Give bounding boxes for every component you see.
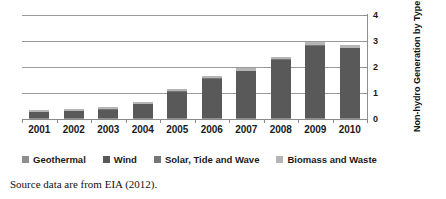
- y-tick-3: [363, 41, 368, 42]
- y-axis-tick-label: 0: [373, 115, 378, 124]
- y-axis-tick-label: 1: [373, 89, 378, 98]
- source-caption: Source data are from EIA (2012).: [10, 178, 157, 190]
- bar-2008[interactable]: [271, 57, 291, 119]
- bar-segment-wind: [202, 79, 222, 118]
- legend-item-wind[interactable]: Wind: [103, 154, 137, 165]
- y-tick-1: [363, 93, 368, 94]
- legend-item-biomass-and-waste[interactable]: Biomass and Waste: [276, 154, 376, 165]
- legend-swatch-icon: [22, 156, 29, 163]
- legend-swatch-icon: [103, 156, 110, 163]
- legend-item-solar-tide-and-wave[interactable]: Solar, Tide and Wave: [154, 154, 260, 165]
- bar-2005[interactable]: [167, 89, 187, 119]
- bar-segment-wind: [98, 110, 118, 118]
- bar-segment-wind: [64, 111, 84, 118]
- bar-segment-wind: [340, 48, 360, 118]
- bar-segment-wind: [271, 60, 291, 118]
- legend-label: Biomass and Waste: [287, 154, 376, 165]
- chart-legend: GeothermalWindSolar, Tide and WaveBiomas…: [22, 152, 422, 166]
- bar-segment-wind: [305, 46, 325, 118]
- legend-swatch-icon: [276, 156, 283, 163]
- plot-area: [22, 15, 367, 119]
- legend-label: Geothermal: [33, 154, 86, 165]
- x-tick: [91, 119, 92, 123]
- y-axis-title-text: Non-hydro Generation by Type (Billion kW…: [412, 8, 423, 132]
- legend-label: Wind: [114, 154, 137, 165]
- x-tick: [195, 119, 196, 123]
- x-tick: [264, 119, 265, 123]
- figure-container: Non-hydro Generation by Type (Billion kW…: [0, 0, 446, 199]
- y-tick-4: [363, 15, 368, 16]
- legend-item-geothermal[interactable]: Geothermal: [22, 154, 86, 165]
- y-axis-tick-label: 2: [373, 63, 378, 72]
- x-tick: [22, 119, 23, 123]
- bar-2009[interactable]: [305, 42, 325, 119]
- bar-segment-wind: [167, 92, 187, 118]
- x-tick: [160, 119, 161, 123]
- x-tick: [298, 119, 299, 123]
- bar-2007[interactable]: [236, 68, 256, 119]
- gridline-4: [22, 15, 367, 16]
- y-axis-tick-label: 3: [373, 37, 378, 46]
- bar-2002[interactable]: [64, 109, 84, 119]
- bar-2001[interactable]: [29, 110, 49, 119]
- bar-2010[interactable]: [340, 45, 360, 119]
- legend-label: Solar, Tide and Wave: [165, 154, 260, 165]
- bar-2003[interactable]: [98, 107, 118, 119]
- bar-2004[interactable]: [133, 102, 153, 119]
- x-tick: [126, 119, 127, 123]
- y-axis-title: Non-hydro Generation by Type (Billion kW…: [392, 8, 442, 132]
- x-tick: [57, 119, 58, 123]
- bar-2006[interactable]: [202, 76, 222, 119]
- bar-segment-wind: [236, 71, 256, 118]
- x-tick: [229, 119, 230, 123]
- x-tick: [367, 119, 368, 123]
- legend-swatch-icon: [154, 156, 161, 163]
- y-axis-tick-label: 4: [373, 11, 378, 20]
- bar-segment-wind: [133, 104, 153, 118]
- x-tick: [333, 119, 334, 123]
- y-tick-2: [363, 67, 368, 68]
- x-axis-label-2010: 2010: [330, 124, 370, 135]
